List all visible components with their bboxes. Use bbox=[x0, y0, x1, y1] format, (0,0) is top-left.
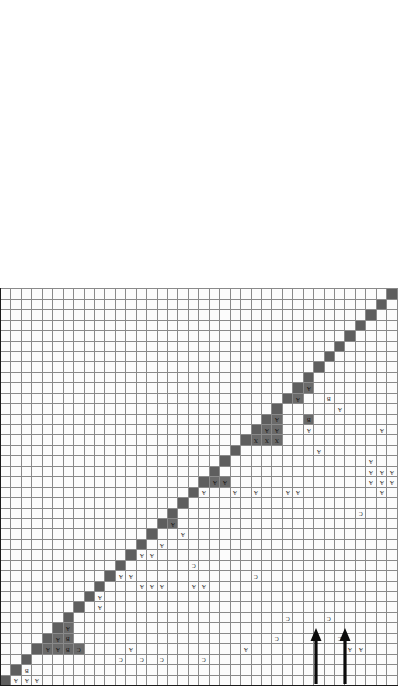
dsm-cell-KK-DD[interactable] bbox=[377, 372, 387, 382]
dsm-cell-T-AA[interactable] bbox=[199, 403, 209, 413]
dsm-cell-T-HH[interactable] bbox=[199, 330, 209, 340]
dsm-cell-LL-EE[interactable] bbox=[387, 361, 397, 371]
dsm-cell-EE-KK[interactable] bbox=[314, 299, 324, 309]
dsm-cell-W-T[interactable] bbox=[231, 476, 241, 486]
dsm-cell-HH-P[interactable] bbox=[345, 518, 355, 528]
dsm-cell-KK-KK[interactable] bbox=[377, 299, 387, 309]
dsm-cell-Q-J[interactable] bbox=[168, 581, 178, 591]
dsm-cell-V-D[interactable] bbox=[220, 643, 230, 653]
dsm-cell-G-LL[interactable] bbox=[64, 288, 74, 298]
dsm-cell-J-V[interactable] bbox=[95, 455, 105, 465]
dsm-cell-C-J[interactable] bbox=[22, 581, 32, 591]
dsm-cell-FF-T[interactable] bbox=[325, 476, 335, 486]
dsm-cell-CC-H[interactable] bbox=[293, 602, 303, 612]
dsm-cell-V-KK[interactable] bbox=[220, 299, 230, 309]
dsm-cell-Y-Q[interactable] bbox=[252, 508, 262, 518]
dsm-cell-J-W[interactable] bbox=[95, 445, 105, 455]
dsm-cell-E-R[interactable] bbox=[43, 497, 53, 507]
dsm-cell-V-CC[interactable] bbox=[220, 382, 230, 392]
dsm-cell-HH-GG[interactable] bbox=[345, 341, 355, 351]
dsm-cell-GG-KK[interactable] bbox=[335, 299, 345, 309]
dsm-cell-GG-O[interactable] bbox=[335, 528, 345, 538]
dsm-cell-R-A[interactable] bbox=[178, 675, 188, 685]
dsm-cell-G-E[interactable]: B bbox=[64, 633, 74, 643]
dsm-cell-W-BB[interactable] bbox=[231, 393, 241, 403]
dsm-cell-O-Q[interactable] bbox=[147, 508, 157, 518]
dsm-cell-L-M[interactable] bbox=[116, 549, 126, 559]
dsm-cell-F-P[interactable] bbox=[53, 518, 63, 528]
dsm-cell-W-P[interactable] bbox=[231, 518, 241, 528]
dsm-cell-EE-AA[interactable] bbox=[314, 403, 324, 413]
dsm-cell-F-B[interactable] bbox=[53, 664, 63, 674]
dsm-cell-DD-G[interactable] bbox=[304, 612, 314, 622]
dsm-cell-C-Y[interactable] bbox=[22, 424, 32, 434]
dsm-cell-GG-B[interactable] bbox=[335, 664, 345, 674]
dsm-cell-Q-Q[interactable] bbox=[168, 508, 178, 518]
dsm-cell-R-FF[interactable] bbox=[178, 351, 188, 361]
dsm-cell-A-BB[interactable] bbox=[1, 393, 11, 403]
dsm-cell-L-Q[interactable] bbox=[116, 508, 126, 518]
dsm-cell-W-X[interactable] bbox=[231, 435, 241, 445]
dsm-cell-E-F[interactable] bbox=[43, 622, 53, 632]
dsm-cell-G-AA[interactable] bbox=[64, 403, 74, 413]
dsm-cell-D-CC[interactable] bbox=[32, 382, 42, 392]
dsm-cell-AA-II[interactable] bbox=[272, 320, 282, 330]
dsm-cell-II-N[interactable] bbox=[356, 539, 366, 549]
dsm-cell-Q-U[interactable] bbox=[168, 466, 178, 476]
dsm-cell-S-H[interactable] bbox=[189, 602, 199, 612]
dsm-cell-D-F[interactable] bbox=[32, 622, 42, 632]
dsm-cell-BB-B[interactable] bbox=[283, 664, 293, 674]
dsm-cell-L-L[interactable] bbox=[116, 560, 126, 570]
dsm-cell-N-K[interactable] bbox=[137, 570, 147, 580]
dsm-cell-P-G[interactable] bbox=[158, 612, 168, 622]
dsm-cell-E-KK[interactable] bbox=[43, 299, 53, 309]
dsm-cell-Z-W[interactable] bbox=[262, 445, 272, 455]
dsm-cell-FF-U[interactable] bbox=[325, 466, 335, 476]
dsm-cell-EE-EE[interactable] bbox=[314, 361, 324, 371]
dsm-cell-W-S[interactable]: A bbox=[231, 487, 241, 497]
dsm-cell-K-HH[interactable] bbox=[105, 330, 115, 340]
dsm-cell-AA-LL[interactable] bbox=[272, 288, 282, 298]
dsm-cell-S-Y[interactable] bbox=[189, 424, 199, 434]
dsm-cell-JJ-KK[interactable] bbox=[366, 299, 376, 309]
dsm-cell-BB-U[interactable] bbox=[283, 466, 293, 476]
dsm-cell-AA-AA[interactable] bbox=[272, 403, 282, 413]
dsm-cell-II-W[interactable] bbox=[356, 445, 366, 455]
dsm-cell-B-Q[interactable] bbox=[11, 508, 21, 518]
dsm-cell-T-CC[interactable] bbox=[199, 382, 209, 392]
dsm-cell-S-V[interactable] bbox=[189, 455, 199, 465]
dsm-cell-B-GG[interactable] bbox=[11, 341, 21, 351]
dsm-cell-EE-C[interactable] bbox=[314, 654, 324, 664]
dsm-cell-KK-K[interactable] bbox=[377, 570, 387, 580]
dsm-cell-X-B[interactable] bbox=[241, 664, 251, 674]
dsm-cell-B-F[interactable] bbox=[11, 622, 21, 632]
dsm-cell-Z-O[interactable] bbox=[262, 528, 272, 538]
dsm-cell-AA-O[interactable] bbox=[272, 528, 282, 538]
dsm-cell-L-EE[interactable] bbox=[116, 361, 126, 371]
dsm-cell-L-BB[interactable] bbox=[116, 393, 126, 403]
dsm-cell-K-GG[interactable] bbox=[105, 341, 115, 351]
dsm-cell-LL-U[interactable]: A bbox=[387, 466, 397, 476]
dsm-cell-W-JJ[interactable] bbox=[231, 309, 241, 319]
dsm-cell-N-EE[interactable] bbox=[137, 361, 147, 371]
dsm-cell-DD-X[interactable] bbox=[304, 435, 314, 445]
dsm-cell-DD-DD[interactable] bbox=[304, 372, 314, 382]
dsm-cell-II-Q[interactable]: C bbox=[356, 508, 366, 518]
dsm-cell-BB-X[interactable] bbox=[283, 435, 293, 445]
dsm-cell-E-LL[interactable] bbox=[43, 288, 53, 298]
dsm-cell-F-EE[interactable] bbox=[53, 361, 63, 371]
dsm-cell-J-I[interactable]: A bbox=[95, 591, 105, 601]
dsm-cell-W-LL[interactable] bbox=[231, 288, 241, 298]
dsm-cell-S-Z[interactable] bbox=[189, 414, 199, 424]
dsm-cell-E-EE[interactable] bbox=[43, 361, 53, 371]
dsm-cell-A-V[interactable] bbox=[1, 455, 11, 465]
dsm-cell-BB-I[interactable] bbox=[283, 591, 293, 601]
dsm-cell-D-AA[interactable] bbox=[32, 403, 42, 413]
dsm-cell-C-LL[interactable] bbox=[22, 288, 32, 298]
dsm-cell-T-U[interactable] bbox=[199, 466, 209, 476]
dsm-cell-BB-JJ[interactable] bbox=[283, 309, 293, 319]
dsm-cell-R-CC[interactable] bbox=[178, 382, 188, 392]
dsm-cell-H-BB[interactable] bbox=[74, 393, 84, 403]
dsm-cell-Z-X[interactable]: X bbox=[262, 435, 272, 445]
dsm-cell-V-E[interactable] bbox=[220, 633, 230, 643]
